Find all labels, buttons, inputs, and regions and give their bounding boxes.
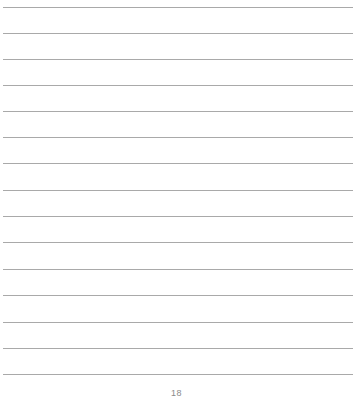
ruled-line bbox=[3, 348, 353, 349]
ruled-line bbox=[3, 190, 353, 191]
ruled-line bbox=[3, 59, 353, 60]
ruled-line bbox=[3, 85, 353, 86]
ruled-line bbox=[3, 111, 353, 112]
ruled-line bbox=[3, 137, 353, 138]
ruled-line bbox=[3, 374, 353, 375]
ruled-line bbox=[3, 269, 353, 270]
ruled-line bbox=[3, 322, 353, 323]
ruled-line bbox=[3, 33, 353, 34]
ruled-line bbox=[3, 216, 353, 217]
ruled-line bbox=[3, 163, 353, 164]
ruled-line bbox=[3, 242, 353, 243]
page-number: 18 bbox=[171, 388, 182, 398]
ruled-line bbox=[3, 295, 353, 296]
ruled-line bbox=[3, 7, 353, 8]
